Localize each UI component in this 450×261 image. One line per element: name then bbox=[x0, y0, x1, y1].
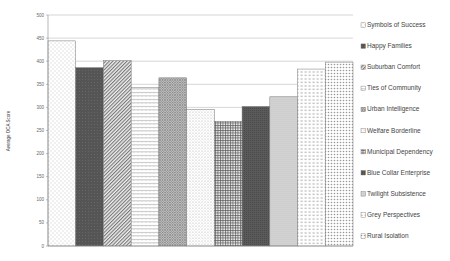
legend-swatch bbox=[361, 149, 366, 154]
bar-chart: 050100150200250300350400450500 Average O… bbox=[0, 0, 450, 261]
legend-label: Blue Collar Enterprise bbox=[367, 169, 431, 177]
y-tick-label: 150 bbox=[36, 174, 44, 179]
y-tick-label: 500 bbox=[36, 13, 44, 18]
legend-swatch bbox=[361, 107, 366, 112]
y-tick-label: 450 bbox=[36, 36, 44, 41]
bar-twilight-subsistence bbox=[270, 97, 298, 246]
bar-municipal-dependency bbox=[214, 121, 242, 246]
legend-swatch bbox=[361, 65, 366, 70]
legend-item: Blue Collar Enterprise bbox=[361, 169, 431, 177]
legend-item: Welfare Borderline bbox=[361, 127, 421, 134]
legend-item: Symbols of Success bbox=[361, 21, 426, 29]
y-axis-ticks: 050100150200250300350400450500 bbox=[36, 13, 48, 249]
y-tick-label: 400 bbox=[36, 59, 44, 64]
legend-label: Suburban Comfort bbox=[367, 63, 420, 70]
bar-welfare-borderline bbox=[187, 109, 215, 246]
legend-label: Symbols of Success bbox=[367, 21, 426, 29]
legend: Symbols of SuccessHappy FamiliesSuburban… bbox=[361, 21, 434, 239]
bar-ties-of-community bbox=[131, 88, 159, 246]
legend-swatch bbox=[361, 23, 366, 28]
bar-grey-perspectives bbox=[298, 69, 326, 246]
legend-item: Urban Intelligence bbox=[361, 105, 420, 113]
legend-label: Urban Intelligence bbox=[367, 105, 420, 113]
bar-urban-intelligence bbox=[159, 78, 187, 246]
legend-item: Rural Isolation bbox=[361, 232, 409, 239]
bar-symbols-of-success bbox=[48, 41, 76, 246]
y-tick-label: 300 bbox=[36, 105, 44, 110]
legend-swatch bbox=[361, 86, 366, 91]
y-tick-label: 0 bbox=[41, 244, 44, 249]
legend-item: Happy Families bbox=[361, 42, 413, 50]
legend-label: Municipal Dependency bbox=[367, 148, 434, 156]
legend-label: Rural Isolation bbox=[367, 232, 409, 239]
legend-label: Twilight Subsistence bbox=[367, 190, 426, 198]
legend-swatch bbox=[361, 128, 366, 133]
legend-swatch bbox=[361, 213, 366, 218]
legend-item: Municipal Dependency bbox=[361, 148, 434, 156]
legend-item: Suburban Comfort bbox=[361, 63, 420, 70]
legend-item: Ties of Community bbox=[361, 84, 422, 92]
legend-swatch bbox=[361, 234, 366, 239]
y-axis-label: Average OCA Score bbox=[6, 110, 11, 151]
y-tick-label: 50 bbox=[39, 220, 45, 225]
bar-blue-collar-enterprise bbox=[242, 106, 270, 246]
legend-label: Grey Perspectives bbox=[367, 211, 421, 219]
legend-label: Ties of Community bbox=[367, 84, 422, 92]
bars bbox=[48, 41, 353, 246]
y-tick-label: 250 bbox=[36, 128, 44, 133]
y-tick-label: 350 bbox=[36, 82, 44, 87]
legend-swatch bbox=[361, 44, 366, 49]
y-tick-label: 200 bbox=[36, 151, 44, 156]
legend-label: Happy Families bbox=[367, 42, 413, 50]
legend-swatch bbox=[361, 192, 366, 197]
bar-suburban-comfort bbox=[103, 61, 131, 246]
legend-item: Twilight Subsistence bbox=[361, 190, 426, 198]
legend-swatch bbox=[361, 171, 366, 176]
legend-item: Grey Perspectives bbox=[361, 211, 421, 219]
legend-label: Welfare Borderline bbox=[367, 127, 421, 134]
bar-rural-isolation bbox=[325, 62, 353, 246]
y-tick-label: 100 bbox=[36, 197, 44, 202]
bar-happy-families bbox=[76, 68, 104, 246]
